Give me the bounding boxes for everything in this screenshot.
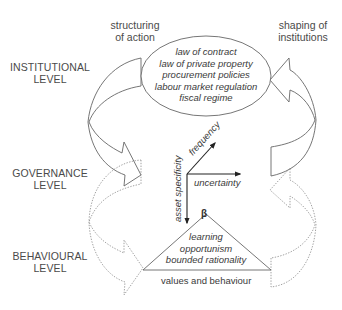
shaping-label-line-1: shaping of bbox=[268, 19, 338, 31]
governance-level-label: GOVERNANCE LEVEL bbox=[5, 167, 95, 191]
beta-symbol: β bbox=[201, 208, 207, 219]
behavioural-level-label: BEHAVIOURAL LEVEL bbox=[5, 250, 95, 274]
structuring-label-line-1: structuring bbox=[100, 19, 170, 31]
institution-item: law of private property bbox=[141, 58, 271, 70]
level-label-line: GOVERNANCE bbox=[5, 167, 95, 179]
institutional-level-label: INSTITUTIONAL LEVEL bbox=[5, 61, 95, 85]
structuring-of-action-label: structuring of action bbox=[100, 19, 170, 43]
behaviour-item: learning bbox=[156, 231, 256, 243]
structuring-arrow-governance-to-behavioural bbox=[89, 160, 143, 295]
level-label-line: BEHAVIOURAL bbox=[5, 250, 95, 262]
institution-item: law of contract bbox=[141, 46, 271, 58]
uncertainty-label: uncertainty bbox=[194, 177, 240, 188]
behaviour-item: opportunism bbox=[156, 243, 256, 255]
level-label-line: INSTITUTIONAL bbox=[5, 61, 95, 73]
shaping-arrow-governance-to-institutional bbox=[270, 58, 316, 176]
behaviour-item: bounded rationality bbox=[156, 254, 256, 266]
shaping-label-line-2: institutions bbox=[268, 31, 338, 43]
level-label-line: LEVEL bbox=[5, 179, 95, 191]
institution-item: fiscal regime bbox=[141, 92, 271, 104]
institution-item: procurement policies bbox=[141, 69, 271, 81]
level-label-line: LEVEL bbox=[5, 73, 95, 85]
shaping-arrow-behavioural-to-governance bbox=[270, 168, 316, 287]
values-and-behaviour-label: values and behaviour bbox=[161, 275, 251, 286]
structuring-label-line-2: of action bbox=[100, 31, 170, 43]
behaviour-items: learning opportunism bounded rationality bbox=[156, 231, 256, 266]
shaping-of-institutions-label: shaping of institutions bbox=[268, 19, 338, 43]
institution-item: labour market regulation bbox=[141, 81, 271, 93]
institutions-list: law of contract law of private property … bbox=[141, 46, 271, 104]
level-label-line: LEVEL bbox=[5, 262, 95, 274]
structuring-arrow-institutional-to-governance bbox=[88, 58, 141, 186]
asset-specificity-label: asset specificity bbox=[172, 155, 183, 222]
